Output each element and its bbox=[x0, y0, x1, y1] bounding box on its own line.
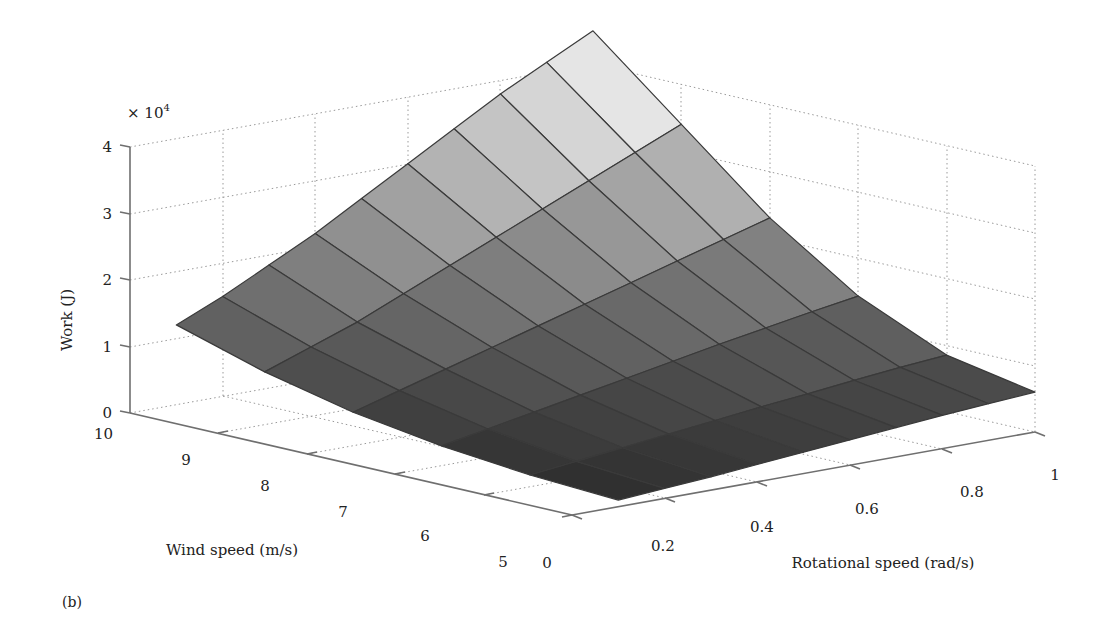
rot-tick: 0.8 bbox=[960, 483, 984, 501]
z-tick: 2 bbox=[102, 271, 112, 289]
rot-tick: 0.6 bbox=[855, 500, 879, 518]
rot-tick: 0.2 bbox=[651, 537, 675, 555]
surface-plot: 0 1 2 3 4 10 9 8 7 6 5 0 0.2 0.4 0.6 0.8… bbox=[0, 0, 1112, 629]
wind-tick: 8 bbox=[260, 477, 270, 495]
rot-axis-label: Rotational speed (rad/s) bbox=[792, 554, 975, 572]
rot-tick: 0 bbox=[542, 554, 552, 572]
z-tick: 1 bbox=[102, 338, 112, 356]
wind-tick: 10 bbox=[94, 425, 113, 443]
wind-axis-label: Wind speed (m/s) bbox=[166, 541, 298, 559]
z-tick: 0 bbox=[102, 404, 112, 422]
surface-mesh bbox=[176, 31, 1035, 500]
wind-tick: 7 bbox=[338, 503, 348, 521]
rot-tick: 0.4 bbox=[750, 518, 774, 536]
z-multiplier: × 104 bbox=[127, 102, 170, 122]
wind-tick: 5 bbox=[498, 553, 508, 571]
z-axis-label: Work (J) bbox=[58, 289, 76, 351]
rot-tick: 1 bbox=[1050, 466, 1060, 484]
wind-tick: 6 bbox=[420, 527, 430, 545]
z-tick: 4 bbox=[102, 138, 112, 156]
wind-tick: 9 bbox=[181, 451, 191, 469]
panel-label: (b) bbox=[62, 594, 82, 610]
z-tick-labels: 0 1 2 3 4 bbox=[102, 138, 112, 422]
z-tick: 3 bbox=[102, 205, 112, 223]
